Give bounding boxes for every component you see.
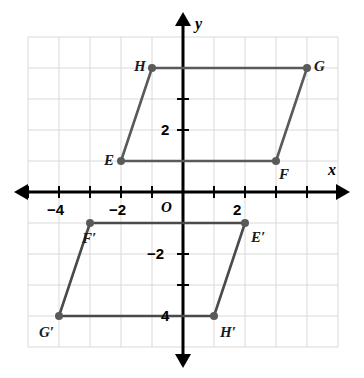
y-tick-label: 4	[161, 308, 169, 323]
vertex-label-F: F	[279, 167, 289, 182]
x-tick-label: −4	[47, 202, 64, 217]
vertex-point-H	[148, 64, 156, 72]
x-axis-label: x	[328, 162, 336, 178]
vertex-point-G-prime	[55, 312, 63, 320]
vertex-point-E	[117, 157, 125, 165]
y-tick-label: −2	[147, 246, 164, 261]
vertex-label-G-prime: G′	[39, 325, 54, 340]
coordinate-plane-figure: x y O −4−222−24 EFGHE′F′G′H′	[0, 0, 364, 378]
arrowhead-up-icon	[175, 12, 191, 26]
vertex-point-E-prime	[241, 219, 249, 227]
origin-label: O	[161, 200, 172, 215]
vertex-point-H-prime	[210, 312, 218, 320]
x-tick-label: −2	[109, 202, 126, 217]
vertex-point-F	[272, 157, 280, 165]
y-axis-label: y	[195, 16, 202, 32]
arrowhead-left-icon	[14, 184, 28, 200]
vertex-label-F-prime: F′	[82, 231, 96, 246]
arrowhead-down-icon	[175, 354, 191, 368]
y-tick-label: 2	[161, 122, 169, 137]
vertex-label-G: G	[314, 59, 325, 74]
vertex-label-H-prime: H′	[220, 325, 236, 340]
axis-lines	[14, 12, 350, 368]
vertex-point-F-prime	[86, 219, 94, 227]
coordinate-grid-svg	[0, 0, 364, 378]
arrowhead-right-icon	[336, 184, 350, 200]
vertex-point-G	[303, 64, 311, 72]
vertex-label-E-prime: E′	[251, 230, 265, 245]
vertex-label-H: H	[134, 59, 146, 74]
vertex-label-E: E	[104, 153, 114, 168]
x-tick-label: 2	[233, 202, 241, 217]
